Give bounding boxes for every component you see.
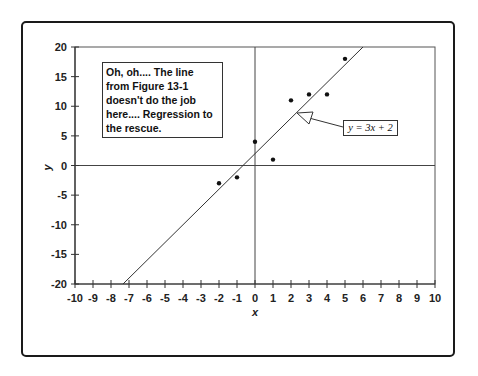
x-tick-label: 10 bbox=[429, 292, 441, 304]
x-axis-title: x bbox=[251, 306, 259, 318]
annotation-note: Oh, oh.... The line from Figure 13-1 doe… bbox=[102, 62, 223, 138]
x-tick-label: 5 bbox=[342, 292, 348, 304]
x-tick-label: 0 bbox=[252, 292, 258, 304]
x-tick-label: -4 bbox=[178, 292, 189, 304]
x-tick-label: 4 bbox=[324, 292, 331, 304]
x-tick-label: -3 bbox=[196, 292, 206, 304]
data-point bbox=[235, 175, 239, 179]
scatter-chart: -10-9-8-7-6-5-4-3-2-10123456789102015105… bbox=[0, 0, 478, 376]
data-point bbox=[289, 98, 293, 102]
y-tick-label: -5 bbox=[57, 189, 67, 201]
callout-arrow-head bbox=[297, 112, 313, 124]
x-tick-label: 2 bbox=[288, 292, 294, 304]
data-point bbox=[343, 57, 347, 61]
callout-arrow-shaft bbox=[309, 118, 343, 127]
y-tick-label: 10 bbox=[55, 100, 67, 112]
data-point bbox=[217, 181, 221, 185]
x-tick-label: -7 bbox=[124, 292, 134, 304]
y-tick-label: 0 bbox=[61, 160, 67, 172]
y-tick-label: -20 bbox=[51, 278, 67, 290]
x-tick-label: -9 bbox=[88, 292, 98, 304]
y-tick-label: -15 bbox=[51, 248, 67, 260]
x-tick-label: 9 bbox=[414, 292, 420, 304]
x-tick-label: 6 bbox=[360, 292, 366, 304]
y-axis-title: y bbox=[41, 164, 53, 172]
x-tick-label: -8 bbox=[106, 292, 116, 304]
data-point bbox=[253, 140, 257, 144]
y-tick-label: 15 bbox=[55, 71, 67, 83]
y-tick-label: 5 bbox=[61, 130, 67, 142]
x-tick-label: 3 bbox=[306, 292, 312, 304]
data-point bbox=[307, 92, 311, 96]
x-tick-label: 7 bbox=[378, 292, 384, 304]
data-point bbox=[271, 157, 275, 161]
x-tick-label: -6 bbox=[142, 292, 152, 304]
x-tick-label: -5 bbox=[160, 292, 170, 304]
x-tick-label: 1 bbox=[270, 292, 276, 304]
x-tick-label: -2 bbox=[214, 292, 224, 304]
equation-label: y = 3x + 2 bbox=[343, 120, 398, 136]
y-tick-label: -10 bbox=[51, 219, 67, 231]
x-tick-label: -1 bbox=[232, 292, 242, 304]
y-tick-label: 20 bbox=[55, 41, 67, 53]
x-tick-label: 8 bbox=[396, 292, 402, 304]
data-point bbox=[325, 92, 329, 96]
x-tick-label: -10 bbox=[67, 292, 83, 304]
